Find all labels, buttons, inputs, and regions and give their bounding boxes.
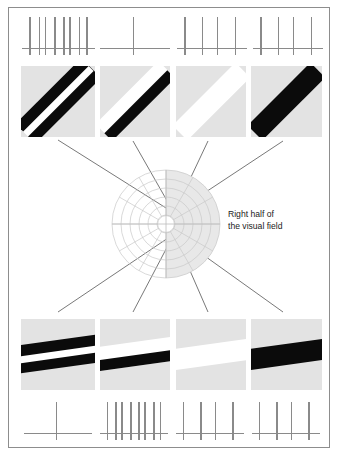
spike-baseline bbox=[100, 433, 168, 434]
response-top-1 bbox=[22, 15, 95, 55]
spike bbox=[183, 402, 185, 440]
spike bbox=[138, 402, 140, 440]
spike bbox=[293, 17, 295, 55]
stimulus-bottom-4 bbox=[251, 319, 322, 390]
spike-baseline bbox=[253, 48, 323, 49]
spike-baseline bbox=[252, 433, 320, 434]
response-bottom-2 bbox=[100, 400, 168, 440]
stimulus-top-1 bbox=[21, 66, 95, 137]
spike bbox=[215, 402, 217, 440]
spike bbox=[184, 17, 186, 55]
spike bbox=[311, 17, 313, 55]
spike bbox=[56, 402, 58, 440]
response-top-2 bbox=[100, 15, 170, 55]
stimulus-bottom-3 bbox=[176, 319, 246, 390]
spike bbox=[276, 402, 278, 440]
spike-baseline bbox=[177, 48, 247, 49]
spike bbox=[160, 402, 162, 440]
spike bbox=[79, 17, 81, 55]
stimulus-top-3 bbox=[176, 66, 246, 137]
stimulus-top-4 bbox=[251, 66, 322, 137]
spike bbox=[308, 402, 310, 440]
spike bbox=[63, 17, 65, 55]
spike bbox=[200, 402, 202, 440]
spike bbox=[107, 402, 109, 440]
spike-baseline bbox=[22, 48, 95, 49]
bar-white-gap bbox=[23, 66, 94, 137]
bar-white bbox=[176, 66, 246, 137]
visual-field-polar-grid bbox=[96, 168, 246, 280]
spike-baseline bbox=[176, 433, 244, 434]
spike bbox=[291, 402, 293, 440]
spike bbox=[259, 402, 261, 440]
spike bbox=[45, 17, 47, 55]
polar-grid-svg bbox=[96, 168, 246, 280]
spike bbox=[235, 17, 237, 55]
figure-root: Right half of the visual field bbox=[0, 0, 338, 458]
spike bbox=[217, 17, 219, 55]
response-bottom-1 bbox=[24, 400, 92, 440]
spike bbox=[144, 402, 146, 440]
spike bbox=[260, 17, 262, 55]
spike bbox=[130, 402, 132, 440]
stimulus-bottom-2 bbox=[100, 319, 170, 390]
stimulus-top-2 bbox=[100, 66, 170, 137]
spike bbox=[133, 17, 135, 55]
spike bbox=[153, 402, 155, 440]
spike bbox=[202, 17, 204, 55]
spike bbox=[39, 17, 41, 55]
bar-black bbox=[251, 338, 322, 371]
visual-field-caption: Right half of the visual field bbox=[228, 209, 328, 232]
response-bottom-3 bbox=[176, 400, 244, 440]
spike bbox=[69, 17, 71, 55]
spike bbox=[121, 402, 123, 440]
spike bbox=[29, 17, 31, 55]
bar-white bbox=[176, 338, 246, 371]
spike-baseline bbox=[24, 433, 92, 434]
spike bbox=[86, 17, 88, 55]
spike bbox=[278, 17, 280, 55]
response-top-4 bbox=[253, 15, 323, 55]
spike bbox=[115, 402, 117, 440]
spike-baseline bbox=[100, 48, 170, 49]
spike bbox=[54, 17, 56, 55]
response-top-3 bbox=[177, 15, 247, 55]
spike bbox=[232, 402, 234, 440]
bar-black bbox=[251, 66, 322, 137]
response-bottom-4 bbox=[252, 400, 320, 440]
stimulus-bottom-1 bbox=[21, 319, 95, 390]
